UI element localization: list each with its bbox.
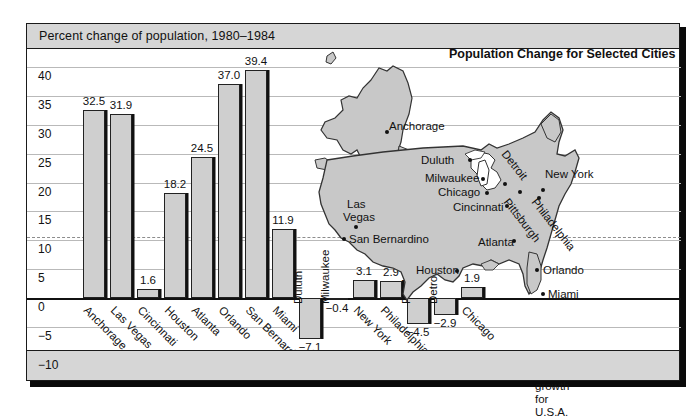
y-axis-tick-20: 20 — [38, 185, 51, 199]
bar-cincinnati[interactable] — [137, 289, 159, 298]
bar-miami[interactable] — [272, 229, 294, 298]
map-label-new-york: New York — [545, 168, 594, 180]
map-dot-atlanta — [512, 239, 516, 243]
y-axis-tick-15: 15 — [38, 213, 51, 227]
y-axis-tick-minus10: −10 — [38, 358, 58, 372]
map-label-orlando: Orlando — [543, 264, 584, 276]
map-label-milwaukee: Milwaukee — [425, 172, 479, 184]
map-label-san-bernardino: San Bernardino — [349, 233, 429, 245]
usa-map-svg — [313, 38, 683, 318]
map-dot-chicago — [485, 191, 489, 195]
y-axis-tick-40: 40 — [38, 69, 51, 83]
map-dot-new-york — [541, 188, 545, 192]
y-axis-tick-10: 10 — [38, 242, 51, 256]
y-axis-tick-35: 35 — [38, 98, 51, 112]
bar-atlanta[interactable] — [191, 157, 213, 299]
florida-detail — [527, 252, 541, 294]
bar-value-miami: 11.9 — [261, 214, 305, 226]
bar-value-las-vegas: 31.9 — [99, 99, 143, 111]
page-title: Percent change of population, 1980–1984 — [39, 29, 275, 43]
map-dot-san-bernardino — [342, 237, 346, 241]
y-axis-tick-0: 0 — [38, 300, 45, 314]
bar-houston[interactable] — [164, 193, 186, 298]
map-label-vegas: Vegas — [343, 211, 375, 223]
bar-las-vegas[interactable] — [110, 114, 132, 298]
map-label-las: Las — [347, 198, 366, 210]
map-label-miami: Miami — [548, 288, 579, 300]
map-dot-duluth — [468, 158, 472, 162]
map-label-anchorage: Anchorage — [389, 120, 445, 132]
map-dot-vegas — [354, 225, 358, 229]
bar-value-san-bernardino: 39.4 — [234, 55, 278, 67]
map-dot-orlando — [535, 268, 539, 272]
bar-label-duluth: Duluth — [292, 271, 304, 304]
map-dot-houston — [455, 269, 459, 273]
y-axis-tick--5: −5 — [38, 329, 52, 343]
figure-panel: Percent change of population, 1980–1984 … — [26, 23, 680, 381]
map-label-cincinnati: Cincinnati — [453, 201, 504, 213]
y-axis-tick-25: 25 — [38, 156, 51, 170]
map-label-chicago: Chicago — [438, 186, 480, 198]
bar-value-detroit: −2.9 — [423, 317, 467, 329]
bar-anchorage[interactable] — [83, 110, 105, 298]
y-axis-tick-5: 5 — [38, 271, 45, 285]
legend-line-2: growth for U.S.A. — [535, 380, 577, 419]
map-label-houston: Houston — [416, 264, 459, 276]
map-dot-philadelphia — [537, 196, 541, 200]
map-title: Population Change for Selected Cities — [449, 47, 675, 61]
bar-orlando[interactable] — [218, 84, 240, 298]
map-dot-detroit — [503, 182, 507, 186]
usa-map: Population Change for Selected Cities An… — [313, 38, 683, 318]
map-dot-anchorage — [385, 130, 389, 134]
bar-san-bernardino[interactable] — [245, 70, 267, 298]
map-label-duluth: Duluth — [421, 154, 454, 166]
map-dot-pittsburgh — [518, 190, 522, 194]
map-label-atlanta: Atlanta — [478, 236, 514, 248]
map-dot-milwaukee — [481, 177, 485, 181]
map-dot-miami — [541, 292, 545, 296]
y-axis-tick-30: 30 — [38, 127, 51, 141]
footer-band: −10 — [27, 350, 679, 380]
alaska-island-1 — [326, 52, 336, 64]
